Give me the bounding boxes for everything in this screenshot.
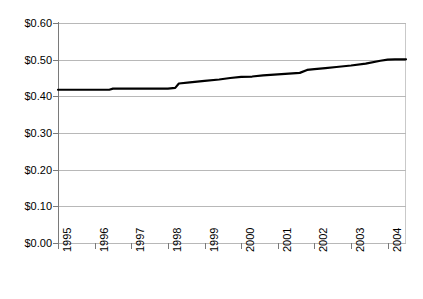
chart-title [0, 0, 423, 6]
x-axis-tick [131, 243, 132, 249]
gridline [58, 23, 406, 24]
x-axis-label: 2003 [355, 228, 366, 252]
gridline [58, 133, 406, 134]
x-axis-label: 1998 [172, 228, 183, 252]
y-axis-label: $0.40 [6, 91, 52, 102]
y-axis-label: $0.60 [6, 18, 52, 29]
y-axis-label: $0.10 [6, 201, 52, 212]
x-axis-tick [351, 243, 352, 249]
y-axis-tick [53, 60, 59, 61]
x-axis-tick [95, 243, 96, 249]
x-axis-label: 2001 [282, 228, 293, 252]
y-axis-tick [53, 206, 59, 207]
x-axis-label: 2004 [392, 228, 403, 252]
gridline [58, 206, 406, 207]
x-axis-label: 1997 [135, 228, 146, 252]
y-axis-label: $0.00 [6, 238, 52, 249]
x-axis-tick [205, 243, 206, 249]
y-axis-label: $0.50 [6, 55, 52, 66]
gridline [58, 96, 406, 97]
x-axis-label: 1996 [99, 228, 110, 252]
x-axis-tick [241, 243, 242, 249]
x-axis-label: 2002 [318, 228, 329, 252]
x-axis-tick [278, 243, 279, 249]
x-axis-label: 2000 [245, 228, 256, 252]
x-axis-label: 1999 [209, 228, 220, 252]
gridline [58, 60, 406, 61]
y-axis-tick [53, 133, 59, 134]
y-axis-label: $0.20 [6, 165, 52, 176]
line-chart: $0.60$0.50$0.40$0.30$0.20$0.10$0.00 1995… [0, 0, 423, 299]
x-axis-tick [58, 243, 59, 249]
y-axis-tick [53, 23, 59, 24]
x-axis-label: 1995 [62, 228, 73, 252]
x-axis-tick [314, 243, 315, 249]
y-axis-tick [53, 96, 59, 97]
x-axis-tick [168, 243, 169, 249]
gridline [58, 170, 406, 171]
x-axis-tick [388, 243, 389, 249]
y-axis-tick [53, 170, 59, 171]
y-axis-label: $0.30 [6, 128, 52, 139]
